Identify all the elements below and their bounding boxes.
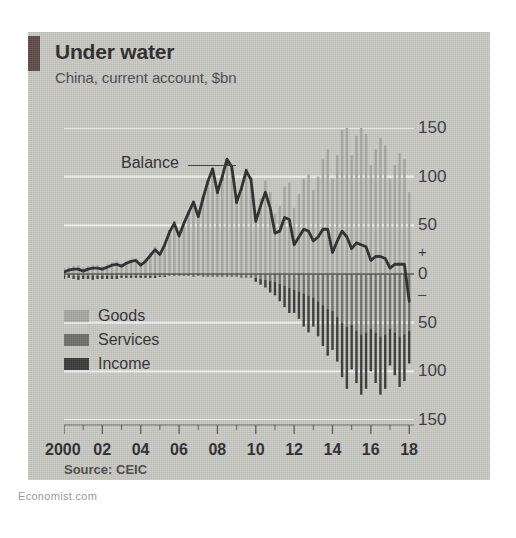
chart-canvas bbox=[64, 128, 414, 420]
source-label: Source: CEIC bbox=[64, 462, 147, 477]
legend-swatch-services bbox=[64, 334, 89, 346]
legend-item-services: Services bbox=[64, 328, 159, 352]
chart-panel: Under water China, current account, $bn … bbox=[28, 32, 490, 480]
x-axis-ticks bbox=[64, 424, 420, 438]
balance-annotation-label: Balance bbox=[121, 154, 179, 172]
y-axis-tick-label: 150 bbox=[418, 119, 446, 136]
y-axis-tick-label: 100 bbox=[418, 362, 446, 379]
plot-area bbox=[64, 128, 414, 420]
y-axis-tick-label: 0 bbox=[418, 265, 427, 282]
watermark: Economist.com bbox=[18, 490, 97, 502]
x-axis-tick-label: 06 bbox=[170, 441, 188, 459]
y-axis-tick-label: 150 bbox=[418, 411, 446, 428]
legend-label-income: Income bbox=[98, 355, 150, 373]
x-axis-tick-label: 12 bbox=[285, 441, 303, 459]
x-axis-tick-label: 18 bbox=[400, 441, 418, 459]
x-axis-tick-label: 02 bbox=[93, 441, 111, 459]
legend-swatch-income bbox=[64, 358, 89, 370]
legend-item-income: Income bbox=[64, 352, 159, 376]
y-axis-tick-label: 50 bbox=[418, 216, 437, 233]
legend-label-goods: Goods bbox=[98, 307, 145, 325]
chart-title: Under water bbox=[55, 40, 174, 64]
accent-tab bbox=[28, 36, 40, 71]
x-axis-tick-label: 2000 bbox=[45, 441, 81, 459]
x-axis-tick-label: 04 bbox=[132, 441, 150, 459]
legend-item-goods: Goods bbox=[64, 304, 159, 328]
y-axis-tick-label: 50 bbox=[418, 314, 437, 331]
x-axis-tick-label: 10 bbox=[247, 441, 265, 459]
y-axis-tick-label: 100 bbox=[418, 168, 446, 185]
y-axis-negative-sign: – bbox=[418, 286, 426, 301]
x-axis-tick-label: 08 bbox=[208, 441, 226, 459]
legend-label-services: Services bbox=[98, 331, 159, 349]
chart-subtitle: China, current account, $bn bbox=[55, 69, 237, 86]
x-axis-tick-label: 14 bbox=[323, 441, 341, 459]
y-axis: 15010050050100150+– bbox=[418, 128, 488, 428]
legend-swatch-goods bbox=[64, 310, 89, 322]
chart-legend: Goods Services Income bbox=[64, 304, 159, 376]
y-axis-positive-sign: + bbox=[418, 244, 427, 259]
x-axis-tick-label: 16 bbox=[362, 441, 380, 459]
balance-annotation-leader-line bbox=[188, 165, 236, 166]
x-axis: 2000020406081012141618 bbox=[64, 424, 420, 464]
